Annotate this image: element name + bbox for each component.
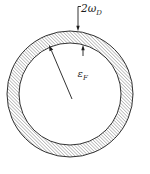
fermi-shell-diagram: 2ωD εF (0, 0, 150, 174)
figure-canvas: 2ωD εF (0, 0, 150, 174)
shell-width-label-subscript: D (95, 9, 102, 17)
shell-width-label-main: 2ω (80, 2, 97, 14)
